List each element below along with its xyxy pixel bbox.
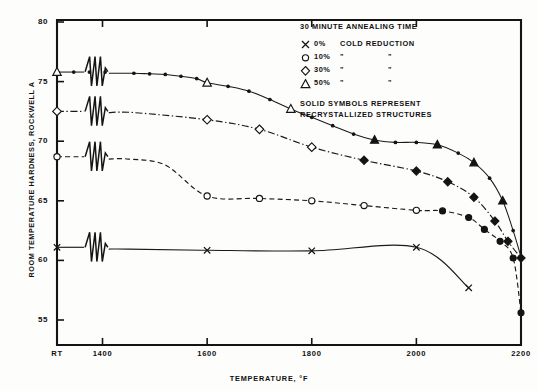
legend-footnote-line2: RECRYSTALLIZED STRUCTURES [300,109,432,120]
marker-dot [148,72,152,76]
marker-circle [440,208,446,214]
chart-figure: ROOM TEMPERATURE HARDNESS, ROCKWELL A TE… [0,0,538,391]
marker-dot [179,74,183,78]
marker-circle [497,238,503,244]
marker-x [465,285,471,291]
series-x [54,232,472,291]
legend-entries: 0%COLD REDUCTION10%""30%""50%"" [300,37,432,89]
marker-circle [54,154,60,160]
axis-break-symbol [85,142,108,171]
marker-circle [256,195,262,201]
marker-circle [466,214,472,220]
legend-entry-label: 10%"" [314,52,392,61]
axis-break-symbol [85,96,108,125]
legend-title: 30 MINUTE ANNEALING TIME [300,22,432,31]
legend-ditto-1: " [340,52,344,61]
series-circle [54,142,524,316]
series-line [109,159,521,313]
circle-icon [300,50,314,63]
marker-circle [518,310,524,316]
legend-entry-label: 0%COLD REDUCTION [314,39,415,48]
series-diamond [53,96,525,262]
marker-circle [204,193,210,199]
marker-dot [103,70,107,74]
marker-diamond [470,193,478,201]
legend-entry-x: 0%COLD REDUCTION [300,37,432,50]
marker-dot [456,151,460,155]
marker-dot [226,85,230,89]
marker-diamond [307,143,316,152]
marker-dot [415,141,419,145]
marker-triangle [287,104,295,112]
marker-circle [481,226,487,232]
legend-ditto-2: " [388,52,392,61]
x-tick-1800: 1800 [282,349,342,358]
marker-dot [394,141,398,145]
legend-ditto-2: " [388,65,392,74]
x-tick-2200: 2200 [491,349,538,358]
marker-dot [488,176,492,180]
y-tick-70: 70 [22,136,48,145]
marker-dot [88,70,92,74]
triangle-icon [300,76,314,89]
marker-dot [331,124,335,128]
series-line [109,112,521,258]
marker-dot [72,70,76,74]
x-tick-1400: 1400 [73,349,133,358]
chart-plot-area [0,0,538,391]
marker-diamond [444,178,452,186]
x-tick-2000: 2000 [386,349,446,358]
marker-dot [247,89,251,93]
x-tick-1600: 1600 [177,349,237,358]
legend-ditto-2: " [388,78,392,87]
legend-footnote: SOLID SYMBOLS REPRESENT RECRYSTALLIZED S… [300,98,432,120]
marker-dot [352,132,356,136]
legend-pct: 0% [314,39,340,48]
legend-pct: 30% [314,65,340,74]
marker-diamond [412,167,420,175]
y-tick-55: 55 [22,315,48,324]
legend-ditto-1: " [340,78,344,87]
axis-break-symbol [85,232,108,261]
legend-pct: 10% [314,52,340,61]
legend-pct: 50% [314,78,340,87]
marker-triangle [53,67,61,75]
legend-entry-circle: 10%"" [300,50,432,63]
x-icon [300,37,314,50]
y-tick-80: 80 [22,17,48,26]
marker-diamond [53,107,62,116]
marker-diamond [504,237,512,245]
series-triangle [53,57,523,259]
marker-dot [511,229,515,233]
marker-circle [361,202,367,208]
legend-entry-label: 30%"" [314,65,392,74]
marker-dot [268,98,272,102]
marker-diamond [255,125,264,134]
marker-circle [309,198,315,204]
y-tick-65: 65 [22,196,48,205]
chart-legend: 30 MINUTE ANNEALING TIME 0%COLD REDUCTIO… [300,22,432,120]
marker-dot [132,71,136,75]
legend-ditto-1: " [340,65,344,74]
marker-diamond [203,115,212,124]
series-line [109,245,469,288]
legend-text: COLD REDUCTION [340,39,415,48]
marker-circle [413,207,419,213]
marker-dot [519,255,523,259]
legend-entry-diamond: 30%"" [300,63,432,76]
x-axis-title: TEMPERATURE, °F [0,374,538,383]
marker-dot [195,77,199,81]
marker-triangle [499,196,507,204]
legend-footnote-line1: SOLID SYMBOLS REPRESENT [300,98,432,109]
y-tick-75: 75 [22,77,48,86]
marker-circle [510,255,516,261]
legend-entry-label: 50%"" [314,78,392,87]
marker-triangle [470,158,478,166]
marker-diamond [360,156,368,164]
marker-dot [163,73,167,77]
diamond-icon [300,63,314,76]
y-tick-60: 60 [22,255,48,264]
legend-entry-triangle: 50%"" [300,76,432,89]
